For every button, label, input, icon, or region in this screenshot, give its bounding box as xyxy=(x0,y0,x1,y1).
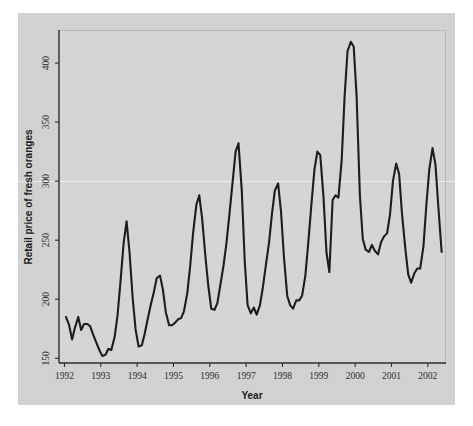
x-tick-label: 2000 xyxy=(346,371,365,381)
y-tick-label: 300 xyxy=(41,174,51,189)
y-axis-ticks: 150200250300350400 xyxy=(41,56,59,366)
x-tick-label: 1992 xyxy=(55,371,74,381)
x-tick-label: 1993 xyxy=(91,371,110,381)
y-tick-label: 250 xyxy=(41,233,51,248)
y-tick-label: 400 xyxy=(41,56,51,70)
x-tick-label: 2001 xyxy=(382,371,401,381)
data-series-line xyxy=(66,42,442,356)
x-tick-label: 1995 xyxy=(164,371,183,381)
y-axis-label: Retail price of fresh oranges xyxy=(23,129,34,264)
x-tick-label: 1996 xyxy=(200,371,219,381)
x-axis-ticks: 1992199319941995199619971998199920002001… xyxy=(55,363,438,381)
x-tick-label: 1997 xyxy=(237,371,256,381)
x-tick-label: 1998 xyxy=(273,371,292,381)
x-axis-label: Year xyxy=(241,390,262,401)
x-tick-label: 1994 xyxy=(128,371,147,381)
x-tick-label: 1999 xyxy=(309,371,328,381)
x-tick-label: 2002 xyxy=(418,371,437,381)
y-tick-label: 200 xyxy=(41,292,51,307)
y-tick-label: 350 xyxy=(41,115,51,130)
y-tick-label: 150 xyxy=(41,351,51,366)
chart-figure: 150200250300350400 199219931994199519961… xyxy=(18,13,455,405)
chart-svg: 150200250300350400 199219931994199519961… xyxy=(18,13,455,405)
